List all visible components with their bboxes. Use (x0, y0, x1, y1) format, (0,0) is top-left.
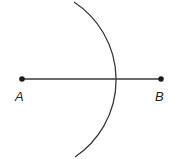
label-a: A (14, 89, 24, 104)
point-a (19, 76, 25, 82)
point-b (158, 76, 164, 82)
label-b: B (155, 89, 164, 104)
diagram-canvas: A B (0, 0, 180, 159)
